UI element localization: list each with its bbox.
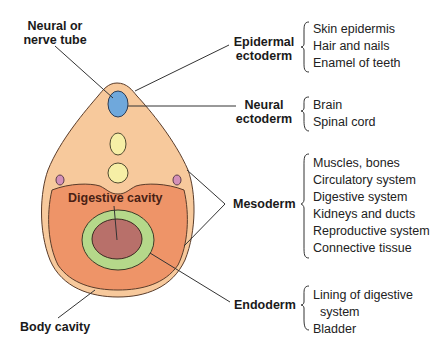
list-item: Reproductive system	[313, 223, 430, 240]
notochord-upper	[110, 133, 126, 155]
list-mesoderm-derivatives: Muscles, bones Circulatory system Digest…	[313, 155, 430, 257]
list-item: Lining of digestive	[313, 287, 413, 304]
list-item: Skin epidermis	[313, 21, 401, 38]
label-endoderm: Endoderm	[234, 298, 296, 312]
list-item: system	[313, 304, 413, 321]
list-item: Spinal cord	[313, 114, 376, 131]
list-item: Muscles, bones	[313, 155, 430, 172]
label-body-cavity: Body cavity	[20, 320, 90, 334]
label-line: ectoderm	[229, 112, 299, 126]
leader-neural-tube	[55, 46, 113, 98]
label-line: ectoderm	[229, 49, 299, 63]
list-item: Hair and nails	[313, 38, 401, 55]
notochord-lower	[108, 163, 128, 183]
label-line: Epidermal	[229, 35, 299, 49]
label-mesoderm: Mesoderm	[233, 197, 296, 211]
label-line: Neural or	[20, 19, 90, 33]
list-item: Connective tissue	[313, 240, 430, 257]
label-line: nerve tube	[20, 33, 90, 47]
neural-tube	[108, 91, 128, 117]
list-item: Kidneys and ducts	[313, 206, 430, 223]
list-endoderm-derivatives: Lining of digestive system Bladder	[313, 287, 413, 338]
list-epidermal-derivatives: Skin epidermis Hair and nails Enamel of …	[313, 21, 401, 72]
brace-epidermal	[301, 22, 309, 72]
list-item: Bladder	[313, 321, 413, 338]
leader-epidermal-ectoderm	[135, 45, 229, 91]
list-item: Digestive system	[313, 189, 430, 206]
brace-neural	[301, 97, 309, 131]
list-neural-derivatives: Brain Spinal cord	[313, 97, 376, 131]
brace-endoderm	[301, 286, 309, 330]
label-neural-tube: Neural or nerve tube	[20, 19, 90, 47]
label-epidermal-ectoderm: Epidermal ectoderm	[229, 35, 299, 63]
list-item: Circulatory system	[313, 172, 430, 189]
label-digestive-cavity: Digestive cavity	[68, 191, 163, 205]
brace-mesoderm	[301, 154, 309, 258]
leader-body-cavity	[58, 290, 95, 318]
list-item: Brain	[313, 97, 376, 114]
label-neural-ectoderm: Neural ectoderm	[229, 98, 299, 126]
label-line: Neural	[229, 98, 299, 112]
somite-dot-right	[173, 175, 181, 185]
somite-dot-left	[56, 175, 64, 185]
list-item: Enamel of teeth	[313, 55, 401, 72]
